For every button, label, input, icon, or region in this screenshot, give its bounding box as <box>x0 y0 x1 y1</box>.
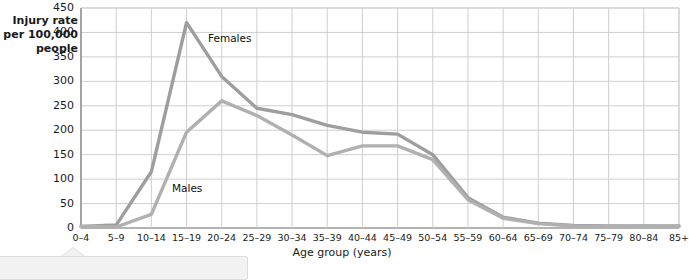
x-axis-tick-label: 85+ <box>669 232 689 243</box>
callout-box <box>0 256 248 280</box>
x-axis-tick-label: 80–84 <box>629 232 658 243</box>
x-axis-tick-label: 55–59 <box>453 232 482 243</box>
series-line-females <box>81 23 679 227</box>
x-axis-tick-label: 10–14 <box>137 232 166 243</box>
y-axis-tick-label: 250 <box>40 99 74 112</box>
y-axis-tick-label: 100 <box>40 172 74 185</box>
x-axis-tick-label: 35–39 <box>313 232 342 243</box>
x-axis-tick-label: 50–54 <box>418 232 447 243</box>
y-axis-tick-label: 450 <box>40 1 74 14</box>
x-axis-tick-label: 15–19 <box>172 232 201 243</box>
y-axis-tick-label: 350 <box>40 50 74 63</box>
x-axis-tick-label: 5–9 <box>108 232 125 243</box>
y-axis-tick-label: 200 <box>40 123 74 136</box>
x-axis-tick-label: 75–79 <box>594 232 623 243</box>
series-label-females: Females <box>208 32 251 44</box>
x-axis-tick-label: 65–69 <box>524 232 553 243</box>
x-axis-tick-label: 45–49 <box>383 232 412 243</box>
x-axis-tick-label: 20–24 <box>207 232 236 243</box>
x-axis-tick-label: 30–34 <box>278 232 307 243</box>
y-axis-tick-label: 150 <box>40 148 74 161</box>
y-axis-tick-label: 50 <box>40 197 74 210</box>
y-axis-tick-label: 400 <box>40 25 74 38</box>
y-axis-tick-label: 300 <box>40 74 74 87</box>
x-axis-tick-label: 25–29 <box>242 232 271 243</box>
series-label-males: Males <box>172 182 202 194</box>
x-axis-tick-label: 60–64 <box>489 232 518 243</box>
x-axis-tick-label: 0–4 <box>73 232 90 243</box>
x-axis-tick-label: 70–74 <box>559 232 588 243</box>
y-axis-tick-label: 0 <box>40 221 74 234</box>
series-line-males <box>81 101 679 227</box>
x-axis-tick-label: 40–44 <box>348 232 377 243</box>
